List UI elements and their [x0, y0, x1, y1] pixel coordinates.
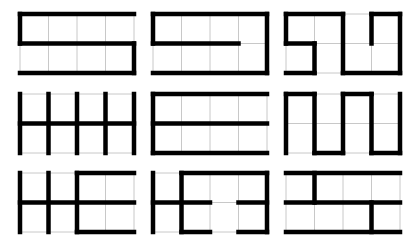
grid-4 [20, 94, 134, 153]
grid-8 [153, 173, 267, 232]
grid-6 [286, 94, 400, 153]
grid-7 [20, 173, 134, 232]
grid-1 [20, 14, 134, 73]
path-segments [20, 94, 134, 153]
path-segments [20, 173, 134, 232]
grid-9 [286, 173, 400, 232]
grid-2 [153, 14, 267, 73]
grid-5 [153, 94, 267, 153]
grid-3 [286, 14, 400, 73]
puzzle-figure [0, 0, 414, 247]
